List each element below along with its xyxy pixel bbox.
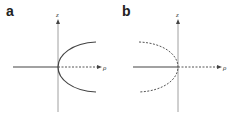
z-arrow-icon — [56, 19, 60, 24]
rho-axis-label: ρ — [102, 64, 107, 72]
panel-b: z ρ — [133, 11, 227, 112]
rho-arrow-icon — [217, 65, 222, 69]
z-arrow-icon — [176, 19, 180, 24]
rho-arrow-icon — [97, 65, 102, 69]
z-axis-label: z — [175, 11, 179, 19]
z-axis-label: z — [55, 11, 59, 19]
panel-a: z ρ — [13, 11, 107, 112]
rho-axis-label: ρ — [222, 64, 227, 72]
diagram: z ρ z ρ — [0, 0, 237, 116]
